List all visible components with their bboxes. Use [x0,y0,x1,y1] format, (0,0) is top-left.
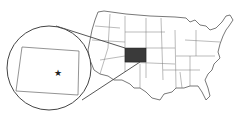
map-svg: ★ [0,0,249,125]
star-icon: ★ [54,68,62,78]
us-outline [88,11,233,100]
colorado-inset-outline [16,47,79,95]
us-map-figure: ★ [0,0,249,125]
colorado-highlight [125,48,146,62]
